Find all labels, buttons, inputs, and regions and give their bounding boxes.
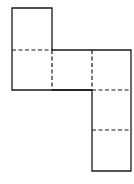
cube-net-diagram [0, 0, 134, 184]
